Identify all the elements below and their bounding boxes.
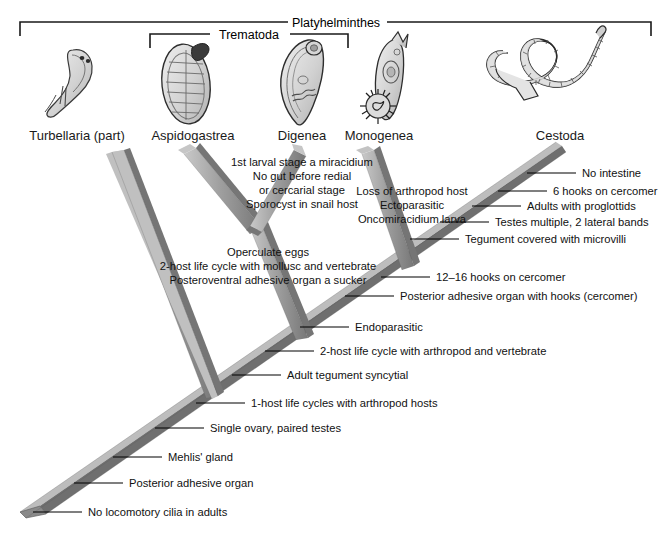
organism-monogenea [360,32,408,124]
character-single-ovary: Single ovary, paired testes [155,422,341,434]
character-block-line: or cercarial stage [259,184,345,196]
taxon-labels: Turbellaria (part) Aspidogastrea Digenea… [29,128,585,143]
character-label: Posterior adhesive organ [129,477,253,489]
character-block-monogenea: Loss of arthropod host Ectoparasitic Onc… [356,185,468,225]
phylogeny-figure: Platyhelminthes Trematoda [0,0,670,545]
character-six-hooks-cercomer: 6 hooks on cercomer [498,185,658,197]
taxon-label-cestoda: Cestoda [536,128,585,143]
character-block-line: Sporocyst in snail host [246,198,359,210]
character-block-line: Posteroventral adhesive organ a sucker [169,274,366,286]
character-block-line: Loss of arthropod host [356,185,468,197]
character-label: Mehlis' gland [168,451,233,463]
character-label: No intestine [582,167,641,179]
character-tick-labels: No intestine 6 hooks on cercomer Adults … [33,167,658,518]
trematoda-bracket-label: Trematoda [219,28,279,42]
taxon-label-digenea: Digenea [278,128,327,143]
character-block-line: Oncomiracidium larva [358,213,467,225]
character-two-host-arthropod-vertebrate: 2-host life cycle with arthropod and ver… [265,345,546,357]
platyhelminthes-bracket: Platyhelminthes [20,16,651,36]
character-block-trematoda: Operculate eggs 2-host life cycle with m… [160,246,376,286]
character-label: No locomotory cilia in adults [88,506,228,518]
taxon-label-turbellaria: Turbellaria (part) [29,128,125,143]
character-twelve-sixteen-hooks: 12–16 hooks on cercomer [381,271,566,283]
character-one-host-arthropod: 1-host life cycles with arthropod hosts [196,397,438,409]
character-adults-proglottids: Adults with proglottids [472,200,636,212]
character-block-line: 2-host life cycle with mollusc and verte… [160,260,376,272]
character-no-intestine: No intestine [527,167,641,179]
organism-turbellaria [45,50,92,117]
taxon-label-monogenea: Monogenea [345,128,414,143]
character-label: 2-host life cycle with arthropod and ver… [320,345,546,357]
cladogram-canvas: Platyhelminthes Trematoda [0,0,670,545]
character-label: Adult tegument syncytial [287,369,408,381]
organism-cestoda [487,26,606,100]
character-block-line: Operculate eggs [227,246,309,258]
taxon-label-aspidogastrea: Aspidogastrea [151,128,235,143]
character-block-line: Ectoparasitic [380,199,444,211]
character-no-locomotory-cilia: No locomotory cilia in adults [33,506,228,518]
character-label: Posterior adhesive organ with hooks (cer… [400,290,638,302]
platyhelminthes-bracket-label: Platyhelminthes [292,16,380,30]
character-posterior-adhesive-cercomer: Posterior adhesive organ with hooks (cer… [345,290,638,302]
character-block-digenea: 1st larval stage a miracidium No gut bef… [231,156,373,210]
character-label: Testes multiple, 2 lateral bands [495,216,649,228]
character-label: 6 hooks on cercomer [553,185,658,197]
character-label: Tegument covered with microvilli [465,233,626,245]
character-adult-tegument-syncytial: Adult tegument syncytial [232,369,408,381]
character-label: Endoparasitic [355,321,423,333]
character-label: 12–16 hooks on cercomer [436,271,566,283]
organism-digenea [281,40,324,125]
character-label: Single ovary, paired testes [210,422,341,434]
character-block-line: 1st larval stage a miracidium [231,156,373,168]
character-label: 1-host life cycles with arthropod hosts [251,397,438,409]
organism-aspidogastrea [158,42,214,127]
character-posterior-adhesive-organ: Posterior adhesive organ [74,477,253,489]
character-label: Adults with proglottids [527,200,636,212]
character-block-line: No gut before redial [253,170,351,182]
